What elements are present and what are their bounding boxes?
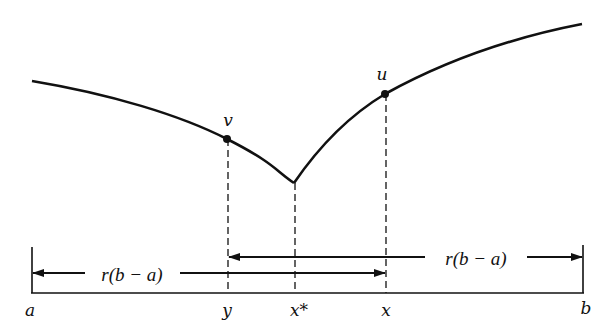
axis-label-b: b bbox=[581, 300, 592, 317]
lower-interval-label: r(b − a) bbox=[97, 265, 166, 284]
diagram-graphics bbox=[0, 0, 612, 330]
point-u-label: u bbox=[377, 66, 388, 83]
axis-label-a: a bbox=[25, 302, 35, 319]
axis-label-x: x bbox=[381, 302, 391, 319]
upper-interval-label: r(b − a) bbox=[441, 249, 510, 268]
diagram-canvas: v u r(b − a) r(b − a) a y x* x b bbox=[0, 0, 612, 330]
axis-label-x-star: x* bbox=[290, 302, 308, 319]
point-v-marker bbox=[223, 135, 231, 143]
point-u-marker bbox=[381, 90, 389, 98]
point-v-label: v bbox=[223, 112, 233, 129]
function-curve-left bbox=[32, 81, 294, 183]
axis-label-y: y bbox=[222, 302, 232, 319]
function-curve-right bbox=[294, 24, 582, 183]
